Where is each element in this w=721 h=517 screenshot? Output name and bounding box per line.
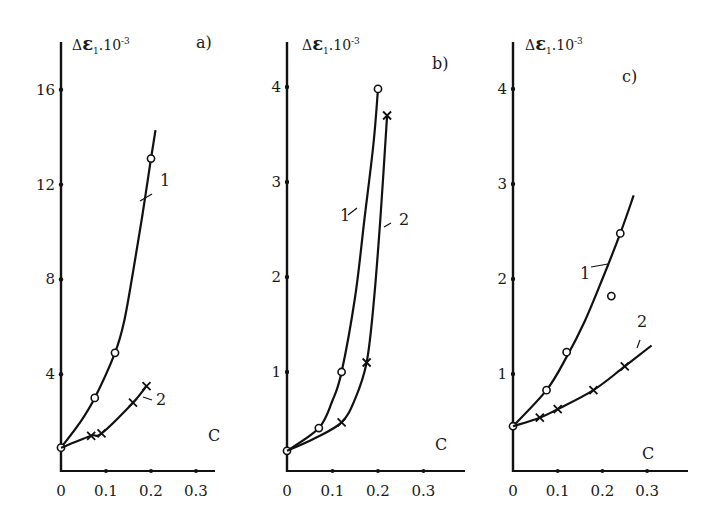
x-tick-label: 0	[56, 482, 66, 500]
chart-panel-a: 48121600.10.20.3Δε1.10-3a)C12	[36, 33, 220, 500]
x-tick-label: 0.3	[635, 482, 659, 500]
data-point-circle	[147, 155, 154, 162]
series-2-line	[287, 116, 387, 451]
x-axis-title: C	[208, 426, 220, 445]
y-tick-label: 1	[271, 363, 281, 381]
data-point-cross	[589, 386, 597, 394]
data-point-circle	[543, 387, 550, 394]
curve-label-1: 1	[340, 206, 350, 225]
chart-panel-b: 123400.10.20.3Δε1.10-3b)C12	[271, 33, 465, 500]
data-point-circle	[91, 394, 98, 401]
panel-label: a)	[196, 33, 212, 52]
data-point-circle	[563, 349, 570, 356]
y-tick-label: 4	[497, 80, 507, 98]
y-tick-label: 2	[271, 268, 281, 286]
x-tick-label: 0.2	[366, 482, 390, 500]
panel-label: c)	[622, 67, 637, 86]
y-tick	[511, 277, 515, 281]
data-point-cross	[338, 418, 346, 426]
y-tick	[285, 85, 289, 89]
x-tick	[104, 469, 108, 473]
data-point-cross	[98, 429, 106, 437]
x-tick	[331, 469, 335, 473]
y-tick	[285, 180, 289, 184]
x-tick	[600, 469, 604, 473]
y-tick-label: 1	[497, 365, 507, 383]
x-tick	[556, 469, 560, 473]
y-tick	[59, 372, 63, 376]
curve-label-1: 1	[160, 171, 170, 190]
y-tick-label: 3	[271, 173, 281, 191]
y-tick	[59, 277, 63, 281]
curve-label-2: 2	[156, 390, 166, 409]
chart-panel-c: 123400.10.20.3Δε1.10-3c)C12	[497, 33, 688, 500]
y-tick	[511, 372, 515, 376]
y-tick	[285, 370, 289, 374]
data-point-circle	[617, 230, 624, 237]
series-2-line	[61, 386, 147, 448]
series-1-line	[287, 89, 378, 451]
x-tick	[149, 469, 153, 473]
curve-label-2: 2	[399, 210, 409, 229]
y-tick	[285, 275, 289, 279]
y-tick	[511, 182, 515, 186]
data-point-cross	[143, 382, 151, 390]
y-tick-label: 4	[45, 365, 55, 383]
curve-label-leader	[384, 223, 391, 227]
data-point-circle	[374, 85, 381, 92]
series-1-line	[61, 130, 156, 448]
x-tick	[422, 469, 426, 473]
curve-label-2: 2	[637, 312, 647, 331]
curve-label-leader	[637, 340, 640, 348]
y-tick	[511, 87, 515, 91]
data-point-circle	[315, 424, 322, 431]
x-tick-label: 0	[282, 482, 292, 500]
y-tick-label: 3	[497, 175, 507, 193]
series-2-line	[513, 346, 652, 427]
x-tick	[645, 469, 649, 473]
x-tick-label: 0.2	[139, 482, 163, 500]
x-tick-label: 0.1	[321, 482, 345, 500]
x-tick-label: 0.3	[412, 482, 436, 500]
y-tick-label: 4	[271, 78, 281, 96]
curve-label-1: 1	[580, 264, 590, 283]
y-axis-title: Δε1.10-3	[525, 33, 583, 56]
x-tick-label: 0	[508, 482, 518, 500]
data-point-circle	[608, 293, 615, 300]
x-tick	[194, 469, 198, 473]
data-point-circle	[111, 349, 118, 356]
curve-label-leader	[143, 397, 152, 400]
series-1-line	[513, 195, 634, 426]
data-point-cross	[621, 362, 629, 370]
y-tick	[59, 88, 63, 92]
y-tick-label: 8	[45, 270, 55, 288]
panel-label: b)	[432, 54, 448, 73]
y-tick	[59, 182, 63, 186]
x-axis-title: C	[435, 435, 447, 454]
curve-label-leader	[591, 264, 608, 267]
x-axis-title: C	[642, 444, 654, 463]
y-tick-label: 2	[497, 270, 507, 288]
figure: 48121600.10.20.3Δε1.10-3a)C12123400.10.2…	[0, 0, 721, 517]
y-axis-title: Δε1.10-3	[72, 33, 130, 56]
data-point-cross	[129, 399, 137, 407]
x-tick-label: 0.2	[590, 482, 614, 500]
data-point-cross	[554, 405, 562, 413]
y-tick-label: 12	[36, 176, 55, 194]
y-axis-title: Δε1.10-3	[302, 33, 360, 56]
y-tick-label: 16	[36, 81, 55, 99]
data-point-circle	[338, 368, 345, 375]
x-tick	[376, 469, 380, 473]
x-tick-label: 0.3	[184, 482, 208, 500]
x-tick-label: 0.1	[94, 482, 118, 500]
x-tick-label: 0.1	[546, 482, 570, 500]
